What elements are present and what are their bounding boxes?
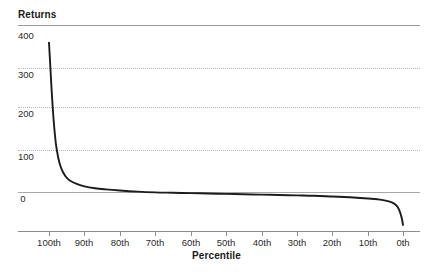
y-tick-label-0: 0: [0, 193, 46, 204]
x-tick-90th: [84, 232, 85, 236]
x-axis-line: [18, 231, 420, 232]
x-tick-80th: [120, 232, 121, 236]
y-tick-label-400: 400: [18, 30, 34, 41]
y-tick-label-300: 300: [18, 69, 34, 80]
y-tick-label-200: 200: [18, 108, 34, 119]
x-tick-70th: [155, 232, 156, 236]
x-tick-20th: [332, 232, 333, 236]
x-tick-40th: [262, 232, 263, 236]
x-tick-10th: [368, 232, 369, 236]
x-axis-title: Percentile: [0, 250, 433, 261]
x-tick-30th: [297, 232, 298, 236]
title-rule: [18, 25, 420, 26]
gridline-200: [18, 107, 420, 108]
x-tick-60th: [191, 232, 192, 236]
chart-figure: Returns 400 300 200 100 0 100th 90th 80t…: [0, 0, 433, 276]
x-tick-0th: [403, 232, 404, 236]
y-tick-label-100: 100: [18, 151, 34, 162]
gridline-300: [18, 68, 420, 69]
y-axis-title: Returns: [18, 9, 56, 20]
gridline-zero: [18, 192, 420, 193]
x-tick-50th: [226, 232, 227, 236]
gridline-100: [18, 150, 420, 151]
x-tick-label-0th: 0th: [381, 237, 425, 248]
x-tick-100th: [49, 232, 50, 236]
